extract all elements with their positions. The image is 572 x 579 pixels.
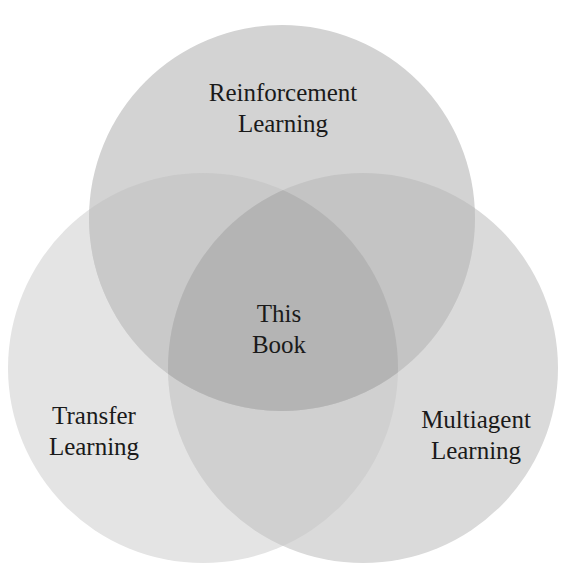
label-this-book: This Book [252, 298, 306, 360]
label-line: Reinforcement [209, 77, 358, 108]
label-line: Learning [49, 431, 139, 462]
label-line: Book [252, 329, 306, 360]
label-line: This [252, 298, 306, 329]
label-line: Learning [209, 108, 358, 139]
label-line: Transfer [49, 400, 139, 431]
label-reinforcement-learning: Reinforcement Learning [209, 77, 358, 139]
label-multiagent-learning: Multiagent Learning [421, 404, 531, 466]
label-line: Multiagent [421, 404, 531, 435]
label-transfer-learning: Transfer Learning [49, 400, 139, 462]
label-line: Learning [421, 435, 531, 466]
